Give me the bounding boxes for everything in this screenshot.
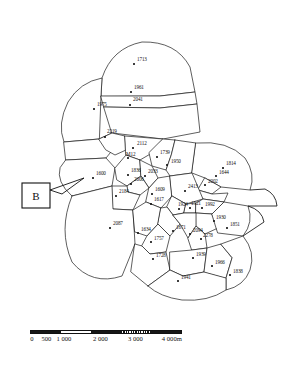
sample-point-label: 1728 — [156, 252, 166, 258]
sample-point-dot — [130, 183, 132, 185]
sample-point-label: 1757 — [154, 235, 164, 241]
sample-point-dot — [211, 265, 213, 267]
sample-point-dot — [213, 220, 215, 222]
sample-point-label: 1930 — [216, 214, 226, 220]
sample-point-dot — [215, 175, 217, 177]
sample-point-label: 2184 — [119, 188, 129, 194]
scale-bar-tick-label: 2 000 — [93, 335, 108, 342]
sample-point-dot — [156, 156, 158, 158]
thiessen-polygon-map-figure: B 171319612041197522192112M1217391950181… — [0, 0, 295, 367]
sample-point-label: 2033 — [148, 168, 158, 174]
sample-point-dot — [115, 195, 117, 197]
sample-point-label: 1950 — [171, 158, 181, 164]
sample-point-dot — [200, 238, 202, 240]
sample-point-label: 1521 — [191, 200, 201, 206]
sample-point-dot — [151, 193, 153, 195]
sample-point-label: 1961 — [134, 84, 144, 90]
scale-bar-tick-label: 1 000 — [56, 335, 71, 342]
sample-point-label: 1836 — [131, 167, 141, 173]
sample-point-dot — [192, 257, 194, 259]
sample-point-dot — [133, 63, 135, 65]
sample-point-dot — [104, 136, 106, 138]
cell-polygon — [101, 42, 195, 96]
sample-point-label: 2278 — [203, 232, 213, 238]
scale-bar-segment — [151, 331, 181, 333]
sample-point-label: 1609 — [155, 186, 165, 192]
sample-point-label: 2413 — [188, 183, 198, 189]
scale-bar-segment — [121, 331, 151, 333]
sample-point-label: M12 — [126, 151, 136, 157]
sample-point-label: 1814 — [226, 160, 236, 166]
cell-polygon — [61, 78, 102, 142]
sample-point-dot — [152, 258, 154, 260]
sample-point-label: 2006 — [134, 176, 144, 182]
sample-point-label: 1617 — [154, 196, 164, 202]
sample-point-label: 1644 — [219, 169, 229, 175]
sample-point-dot — [93, 108, 95, 110]
scale-bar-tick-label: 0 — [30, 335, 33, 342]
sample-point-dot — [150, 203, 152, 205]
cell-polygon — [192, 143, 252, 190]
sample-point-dot — [92, 177, 94, 179]
sample-point-label: 1713 — [137, 56, 147, 62]
scale-bar-segments — [30, 330, 182, 334]
sample-point-dot — [177, 280, 179, 282]
polygon-cell-group — [59, 42, 277, 300]
scale-bar-segment — [91, 331, 121, 333]
sample-point-label: 1634 — [141, 226, 151, 232]
sample-point-label: 1924 — [178, 201, 188, 207]
sample-point-dot — [127, 157, 129, 159]
sample-point-dot — [130, 91, 132, 93]
sample-point-label: 2219 — [107, 128, 117, 134]
sample-point-label: 1600 — [96, 170, 106, 176]
sample-point-label: 1966 — [215, 259, 225, 265]
sample-point-dot — [144, 175, 146, 177]
callout-label: B — [32, 190, 39, 202]
sample-point-label: 2041 — [133, 96, 143, 102]
sample-point-label: 1941 — [181, 274, 191, 280]
sample-point-dot — [172, 230, 174, 232]
sample-point-dot — [127, 174, 129, 176]
sample-point-dot — [204, 184, 206, 186]
scale-bar-segment — [31, 331, 61, 333]
sample-point-dot — [226, 227, 228, 229]
sample-point-dot — [189, 233, 191, 235]
sample-point-dot — [129, 104, 131, 106]
sample-point-label: 2002 — [208, 178, 218, 184]
sample-point-dot — [132, 147, 134, 149]
sample-point-dot — [109, 227, 111, 229]
sample-point-label: 1838 — [233, 268, 243, 274]
sample-point-dot — [137, 232, 139, 234]
sample-point-dot — [229, 274, 231, 276]
sample-point-dot — [201, 207, 203, 209]
sample-point-label: 1975 — [97, 101, 107, 107]
scale-bar: 05001 0002 0003 0004 000m — [30, 330, 190, 347]
sample-point-label: 2094 — [193, 227, 203, 233]
sample-point-dot — [189, 207, 191, 209]
sample-point-dot — [166, 164, 168, 166]
sample-point-label: 2112 — [137, 140, 147, 146]
sample-point-dot — [184, 190, 186, 192]
scale-bar-segment — [61, 331, 91, 333]
sample-point-label: 2087 — [113, 220, 123, 226]
sample-point-dot — [178, 208, 180, 210]
cell-polygon — [104, 104, 200, 139]
sample-point-label: 1851 — [230, 221, 240, 227]
sample-point-dot — [150, 241, 152, 243]
outer-boundary-edge — [248, 189, 277, 206]
scale-bar-tick-label: 4 000m — [162, 335, 182, 342]
sample-point-label: 1992 — [205, 201, 215, 207]
map-drawing: B 171319612041197522192112M1217391950181… — [0, 0, 295, 367]
sample-point-label: 1671 — [176, 224, 186, 230]
scale-bar-tick-labels: 05001 0002 0003 0004 000m — [30, 335, 190, 347]
scale-bar-tick-label: 3 000 — [128, 335, 143, 342]
sample-point-label: 1739 — [160, 149, 170, 155]
scale-bar-tick-label: 500 — [41, 335, 51, 342]
sample-point-label: 1939 — [196, 251, 206, 257]
